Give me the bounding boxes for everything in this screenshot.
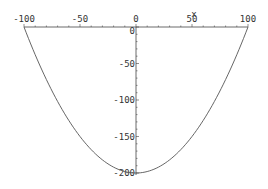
x-axis-title: x xyxy=(191,9,197,19)
x-tick-label: -50 xyxy=(72,14,88,24)
parabola-chart: -100-50050100 0-50-100-150-200 x xyxy=(0,0,268,189)
y-tick-label: -100 xyxy=(113,95,135,105)
y-tick-label: 0 xyxy=(130,26,135,36)
x-tick-label: 0 xyxy=(133,14,138,24)
y-axis: 0-50-100-150-200 xyxy=(113,26,139,178)
y-tick-label: -150 xyxy=(113,132,135,142)
x-tick-label: 100 xyxy=(240,14,256,24)
x-tick-label: -100 xyxy=(13,14,35,24)
y-tick-label: -50 xyxy=(119,59,135,69)
